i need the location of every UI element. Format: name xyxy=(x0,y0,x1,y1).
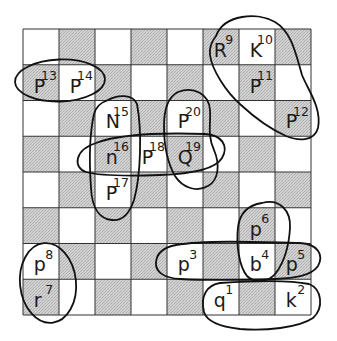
dark-square xyxy=(95,208,131,244)
dark-square xyxy=(203,172,239,208)
light-square xyxy=(167,29,203,65)
dark-square xyxy=(167,279,203,315)
piece-number: 4 xyxy=(261,247,269,262)
piece-number: 13 xyxy=(41,68,57,83)
piece-number: 15 xyxy=(113,104,129,119)
light-square xyxy=(203,208,239,244)
piece-number: 7 xyxy=(45,282,53,297)
piece-number: 12 xyxy=(293,104,309,119)
dark-square xyxy=(95,279,131,315)
piece-number: 8 xyxy=(45,247,53,262)
dark-square xyxy=(131,29,167,65)
dark-square xyxy=(131,101,167,137)
light-square xyxy=(131,279,167,315)
piece-number: 17 xyxy=(113,175,129,190)
piece-number: 16 xyxy=(113,139,129,154)
light-square xyxy=(95,29,131,65)
dark-square xyxy=(239,136,275,172)
piece-number: 9 xyxy=(225,32,233,47)
piece-number: 6 xyxy=(261,211,269,226)
piece-letter: k xyxy=(286,289,297,311)
dark-square xyxy=(203,101,239,137)
piece-number: 11 xyxy=(257,68,273,83)
piece-letter: p xyxy=(178,253,190,275)
piece-letter: p xyxy=(250,218,262,240)
piece-number: 5 xyxy=(297,247,305,262)
piece-number: 10 xyxy=(257,32,273,47)
piece-number: 14 xyxy=(77,68,93,83)
dark-square xyxy=(275,172,311,208)
piece-letter: b xyxy=(250,253,262,275)
piece-number: 19 xyxy=(185,139,201,154)
piece-number: 3 xyxy=(189,247,197,262)
dark-square xyxy=(23,136,59,172)
light-square xyxy=(131,65,167,101)
dark-square xyxy=(23,208,59,244)
chess-diagram: q1k2p3b4p5p6r7p8R9K10P11P12P13P14N15n16P… xyxy=(0,0,337,341)
piece-letter: q xyxy=(214,289,226,311)
light-square xyxy=(95,244,131,280)
dark-square xyxy=(59,244,95,280)
light-square xyxy=(203,136,239,172)
piece-number: 2 xyxy=(297,282,305,297)
dark-square xyxy=(59,101,95,137)
light-square xyxy=(23,172,59,208)
dark-square xyxy=(167,208,203,244)
light-square xyxy=(23,101,59,137)
piece-letter: p xyxy=(286,253,298,275)
piece-number: 1 xyxy=(225,282,233,297)
piece-letter: r xyxy=(34,289,42,311)
piece-number: 20 xyxy=(185,104,201,119)
light-square xyxy=(275,136,311,172)
dark-square xyxy=(239,279,275,315)
light-square xyxy=(275,208,311,244)
dark-square xyxy=(203,244,239,280)
light-square xyxy=(131,208,167,244)
light-square xyxy=(59,208,95,244)
piece-number: 18 xyxy=(149,139,165,154)
piece-letter: p xyxy=(34,253,46,275)
